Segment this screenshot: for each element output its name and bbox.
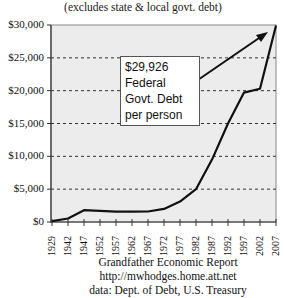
- y-tick-label: $10,000: [0, 149, 44, 161]
- x-tick-label: 1992: [222, 236, 233, 256]
- callout-line: $29,926: [125, 59, 195, 75]
- x-tick-label: 1929: [46, 236, 57, 256]
- x-tick-label: 1962: [126, 236, 137, 256]
- x-tick-label: 1972: [158, 236, 169, 256]
- callout-line: per person: [125, 107, 195, 123]
- x-tick-label: 1957: [110, 236, 121, 256]
- x-tick-label: 1947: [78, 236, 89, 256]
- callout-line: Federal: [125, 75, 195, 91]
- y-tick-label: $5,000: [0, 182, 44, 194]
- y-tick-label: $20,000: [0, 84, 44, 96]
- y-tick-label: $15,000: [0, 117, 44, 129]
- x-tick-label: 1967: [142, 236, 153, 256]
- x-tick-label: 1987: [206, 236, 217, 256]
- x-tick-label: 1942: [62, 236, 73, 256]
- footer-data: data: Dept. of Debt, U.S. Treasury: [50, 284, 286, 297]
- x-tick-label: 2002: [254, 236, 265, 256]
- x-tick-label: 1977: [174, 236, 185, 256]
- y-tick-label: $30,000: [0, 18, 44, 30]
- x-tick-label: 1997: [238, 236, 249, 256]
- x-tick-label: 2007: [270, 236, 281, 256]
- x-tick-label: 1982: [190, 236, 201, 256]
- y-tick-label: $25,000: [0, 51, 44, 63]
- x-tick-label: 1952: [94, 236, 105, 256]
- footer-url: http://mwhodges.home.att.net: [50, 270, 286, 283]
- y-tick-label: $0: [0, 215, 44, 227]
- callout-line: Govt. Debt: [125, 91, 195, 107]
- callout-box: $29,926 Federal Govt. Debt per person: [120, 56, 200, 126]
- footer-source: Grandfather Economic Report: [50, 256, 286, 269]
